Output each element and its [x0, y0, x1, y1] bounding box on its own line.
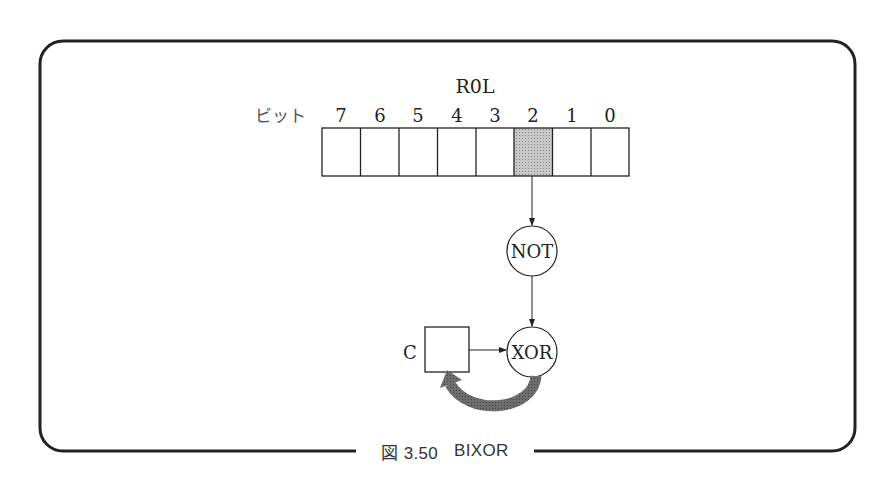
figure-caption: 図 3.50 BIXOR [356, 438, 534, 464]
xor-gate: XOR [507, 327, 557, 377]
bit-label: ビット [255, 107, 306, 126]
bixor-diagram: R0L ビット 7 6 5 4 3 2 1 0 NOT XOR [0, 0, 888, 486]
carry-flag-label: C [403, 342, 417, 363]
register-name: R0L [455, 75, 494, 97]
bit-number-5: 5 [412, 105, 423, 126]
figure-number: 図 3.50 [381, 439, 438, 464]
bit-number-0: 0 [604, 105, 615, 126]
bit-number-3: 3 [489, 105, 500, 126]
bit-number-1: 1 [566, 105, 577, 126]
carry-flag-box [425, 327, 469, 372]
carry-flag: C [403, 327, 469, 372]
bit-number-6: 6 [374, 105, 385, 126]
not-gate: NOT [507, 226, 557, 276]
register-cell-2-highlighted [514, 128, 553, 176]
bit-number-4: 4 [451, 105, 462, 126]
bit-number-7: 7 [335, 105, 346, 126]
figure-title: BIXOR [454, 441, 508, 461]
register-cells [322, 128, 629, 176]
not-gate-label: NOT [511, 241, 554, 262]
bit-number-2: 2 [527, 105, 538, 126]
xor-gate-label: XOR [512, 342, 553, 363]
bit-numbers: 7 6 5 4 3 2 1 0 [335, 105, 615, 126]
